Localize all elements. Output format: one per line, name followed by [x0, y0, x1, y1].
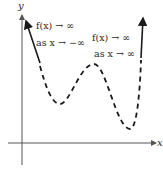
right-annotation-line1: f(x) → ∞ [92, 32, 130, 43]
y-axis-label: y [17, 0, 24, 11]
left-annotation-line1: f(x) → ∞ [36, 20, 74, 31]
function-curve [40, 60, 141, 129]
x-axis-label: x [157, 137, 163, 148]
right-end-arrow-icon [141, 18, 143, 58]
right-annotation-line2: as x → ∞ [94, 48, 135, 59]
graph-canvas: x y f(x) → ∞ as x → −∞ f(x) → ∞ as x → ∞ [0, 0, 163, 177]
left-annotation-line2: as x → −∞ [36, 37, 85, 48]
